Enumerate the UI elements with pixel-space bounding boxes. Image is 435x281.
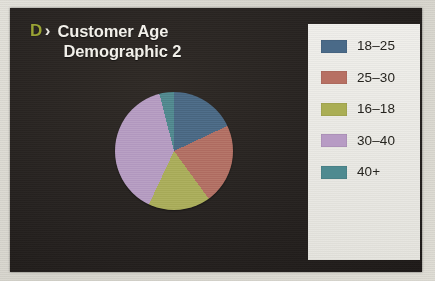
brand-logo: D › [30, 22, 50, 39]
chart-legend: 18–2525–3016–1830–4040+ [308, 24, 420, 260]
legend-color-swatch [321, 40, 347, 53]
legend-item-label: 30–40 [357, 134, 395, 148]
pie-chart-slices [115, 92, 233, 210]
page-title-line-1: Customer Age [57, 21, 181, 41]
legend-item-label: 16–18 [357, 102, 395, 116]
pie-chart [115, 92, 233, 210]
legend-color-swatch [321, 166, 347, 179]
legend-color-swatch [321, 71, 347, 84]
legend-item: 16–18 [321, 98, 416, 120]
slide-title-block: D › Customer Age Demographic 2 [30, 21, 280, 61]
legend-item: 30–40 [321, 130, 416, 152]
legend-item: 25–30 [321, 67, 416, 89]
chart-area [34, 92, 294, 262]
legend-item-label: 40+ [357, 165, 380, 179]
legend-list: 18–2525–3016–1830–4040+ [321, 35, 416, 193]
legend-color-swatch [321, 134, 347, 147]
page-title-line-2: Demographic 2 [63, 41, 181, 61]
legend-item-label: 18–25 [357, 39, 395, 53]
chevron-right-icon: › [45, 22, 51, 39]
legend-item: 40+ [321, 161, 416, 183]
slide-panel: D › Customer Age Demographic 2 18–2525–3… [10, 8, 422, 272]
legend-color-swatch [321, 103, 347, 116]
page-title: Customer Age Demographic 2 [57, 21, 181, 61]
legend-item-label: 25–30 [357, 71, 395, 85]
logo-letter-d: D [30, 22, 42, 39]
legend-item: 18–25 [321, 35, 416, 57]
